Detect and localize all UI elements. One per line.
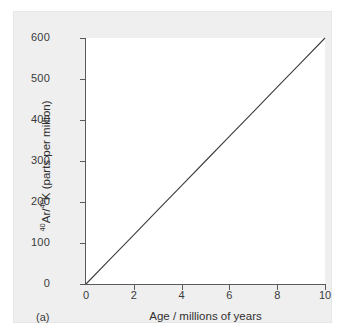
y-tick-200 <box>80 202 86 203</box>
y-tick-label-600: 600 <box>31 31 50 43</box>
y-tick-label-0: 0 <box>44 277 50 289</box>
figure-root: 0100200300400500600 0246810 40Ar/40K (pa… <box>0 0 345 329</box>
y-axis-title: 40Ar/40K (parts per million) <box>40 71 52 261</box>
y-tick-500 <box>80 79 86 80</box>
x-tick-label-2: 2 <box>119 289 149 301</box>
x-tick-label-8: 8 <box>262 289 292 301</box>
x-tick-label-10: 10 <box>310 289 340 301</box>
plot-area <box>86 38 325 284</box>
y-axis-title-text-2: K (parts per million) <box>40 100 52 200</box>
x-axis-line <box>85 284 326 285</box>
y-tick-400 <box>80 120 86 121</box>
y-tick-100 <box>80 243 86 244</box>
y-tick-300 <box>80 161 86 162</box>
y-tick-0 <box>80 284 86 285</box>
x-tick-label-4: 4 <box>167 289 197 301</box>
figure-panel: 0100200300400500600 0246810 40Ar/40K (pa… <box>14 12 331 322</box>
x-axis-title: Age / millions of years <box>86 310 325 322</box>
x-tick-label-0: 0 <box>71 289 101 301</box>
y-axis-title-sup-1: 40 <box>38 223 47 231</box>
y-axis-title-text-1: Ar/ <box>40 209 52 224</box>
panel-label: (a) <box>36 311 49 323</box>
x-tick-label-6: 6 <box>214 289 244 301</box>
y-axis-title-sup-2: 40 <box>38 200 47 208</box>
y-tick-600 <box>80 38 86 39</box>
